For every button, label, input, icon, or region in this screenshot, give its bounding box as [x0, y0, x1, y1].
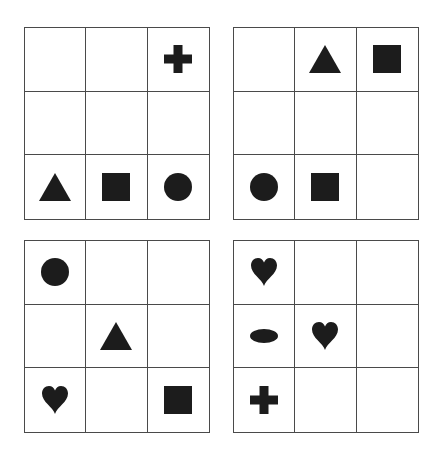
cell-r0-c1: [86, 241, 147, 305]
cell-r1-c2: [148, 92, 209, 156]
cell-r0-c2: [357, 28, 418, 92]
cell-r0-c1: [295, 241, 356, 305]
cell-r1-c1: [86, 305, 147, 369]
cell-r2-c1: [86, 368, 147, 432]
cross-icon: [164, 45, 192, 73]
cell-r0-c1: [295, 28, 356, 92]
cell-r0-c1: [86, 28, 147, 92]
square-icon: [102, 173, 130, 201]
cell-r1-c2: [148, 305, 209, 369]
cell-r2-c1: [86, 155, 147, 219]
cell-r1-c2: [357, 305, 418, 369]
heart-icon: [312, 322, 338, 350]
cell-r2-c1: [295, 155, 356, 219]
cell-r2-c2: [357, 368, 418, 432]
cell-r0-c2: [148, 28, 209, 92]
cell-r2-c2: [148, 155, 209, 219]
cell-r2-c1: [295, 368, 356, 432]
cell-r1-c0: [25, 92, 86, 156]
heart-icon: [42, 386, 68, 414]
cell-r2-c0: [25, 155, 86, 219]
cell-r2-c0: [25, 368, 86, 432]
cell-r2-c2: [357, 155, 418, 219]
square-icon: [373, 45, 401, 73]
triangle-icon: [39, 173, 71, 201]
triangle-icon: [100, 322, 132, 350]
cell-r2-c0: [234, 368, 295, 432]
square-icon: [164, 386, 192, 414]
panel-bottom-right: [233, 240, 419, 433]
cross-icon: [250, 386, 278, 414]
cell-r0-c0: [234, 28, 295, 92]
cell-r1-c1: [86, 92, 147, 156]
cell-r1-c0: [234, 305, 295, 369]
cell-r1-c0: [25, 305, 86, 369]
circle-icon: [41, 258, 69, 286]
cell-r0-c0: [234, 241, 295, 305]
cell-r1-c2: [357, 92, 418, 156]
cell-r0-c2: [357, 241, 418, 305]
cell-r0-c0: [25, 28, 86, 92]
cell-r1-c0: [234, 92, 295, 156]
circle-icon: [250, 173, 278, 201]
ellipse-icon: [250, 329, 278, 343]
cell-r1-c1: [295, 305, 356, 369]
circle-icon: [164, 173, 192, 201]
panel-top-right: [233, 27, 419, 220]
cell-r0-c0: [25, 241, 86, 305]
cell-r0-c2: [148, 241, 209, 305]
cell-r2-c0: [234, 155, 295, 219]
triangle-icon: [309, 45, 341, 73]
panel-top-left: [24, 27, 210, 220]
cell-r2-c2: [148, 368, 209, 432]
heart-icon: [251, 258, 277, 286]
panel-bottom-left: [24, 240, 210, 433]
square-icon: [311, 173, 339, 201]
cell-r1-c1: [295, 92, 356, 156]
